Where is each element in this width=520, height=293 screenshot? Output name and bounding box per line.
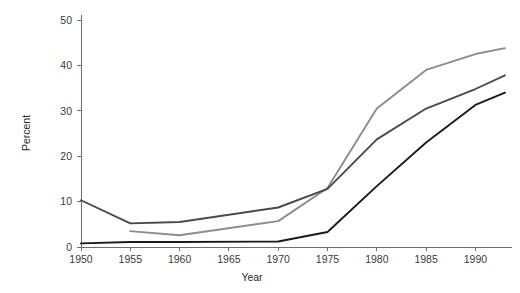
y-axis-title: Percent xyxy=(20,115,32,151)
series-series-light-gray xyxy=(130,48,505,235)
x-tick-label: 1975 xyxy=(316,253,340,265)
x-tick-label: 1980 xyxy=(365,253,389,265)
y-axis: 01020304050 xyxy=(60,14,81,253)
data-series-group xyxy=(81,48,505,243)
chart-container: 01020304050 1950195519601965197019751980… xyxy=(0,0,520,293)
y-tick-label: 30 xyxy=(60,105,72,117)
series-series-dark-gray xyxy=(81,75,505,223)
y-tick-label: 40 xyxy=(60,59,72,71)
x-tick-label: 1970 xyxy=(267,253,291,265)
x-tick-label: 1955 xyxy=(119,253,143,265)
x-tick-label: 1960 xyxy=(168,253,192,265)
line-chart: 01020304050 1950195519601965197019751980… xyxy=(0,0,520,293)
y-tick-label: 0 xyxy=(66,241,72,253)
x-tick-label: 1950 xyxy=(69,253,93,265)
x-tick-label: 1985 xyxy=(414,253,438,265)
x-axis: 195019551960196519701975198019851990 xyxy=(69,247,512,265)
y-tick-label: 10 xyxy=(60,195,72,207)
y-tick-label: 20 xyxy=(60,150,72,162)
x-tick-label: 1965 xyxy=(217,253,241,265)
x-axis-title: Year xyxy=(241,271,263,283)
y-tick-label: 50 xyxy=(60,14,72,26)
series-series-black xyxy=(81,93,505,244)
x-tick-label: 1990 xyxy=(464,253,488,265)
